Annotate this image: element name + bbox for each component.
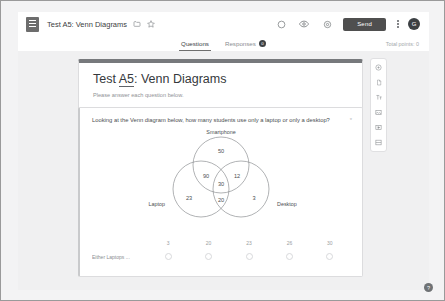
- venn-circle-desktop: [213, 161, 269, 217]
- grid-column-header: 30: [310, 240, 350, 246]
- add-section-icon[interactable]: [373, 137, 384, 148]
- answer-grid-header: 3 20 23 26 30: [92, 240, 350, 246]
- question-text[interactable]: Looking at the Venn diagram below, how m…: [92, 117, 350, 124]
- question-toolbar: [370, 58, 387, 152]
- table-row: Either Laptops ...: [92, 253, 350, 260]
- required-marker: *: [350, 117, 352, 123]
- radio-button[interactable]: [205, 253, 212, 260]
- more-vertical-icon[interactable]: [394, 17, 402, 31]
- tab-questions[interactable]: Questions: [179, 36, 211, 51]
- question-card[interactable]: Looking at the Venn diagram below, how m…: [78, 107, 363, 277]
- help-button[interactable]: ?: [424, 283, 433, 292]
- add-question-icon[interactable]: [373, 62, 384, 73]
- add-image-icon[interactable]: [373, 107, 384, 118]
- form-title-misspelled-token: A5: [119, 72, 134, 87]
- grid-column-header: 3: [148, 240, 188, 246]
- venn-value-smartphone-desktop: 12: [234, 173, 240, 179]
- tab-strip: Questions Responses 0 Total points: 0: [18, 36, 429, 51]
- venn-value-all-three: 30: [218, 181, 224, 187]
- tab-responses-label: Responses: [225, 40, 256, 47]
- grid-column-header: 20: [188, 240, 228, 246]
- eye-preview-icon[interactable]: [297, 17, 311, 31]
- grid-cell[interactable]: [188, 253, 228, 260]
- venn-value-smartphone-only: 50: [218, 148, 224, 154]
- google-forms-icon[interactable]: [26, 17, 39, 32]
- grid-cell[interactable]: [229, 253, 269, 260]
- grid-row-label: Either Laptops ...: [92, 254, 148, 260]
- add-title-description-icon[interactable]: [373, 92, 384, 103]
- radio-button[interactable]: [165, 253, 172, 260]
- venn-label-laptop: Laptop: [149, 201, 166, 207]
- grid-column-header: 26: [269, 240, 309, 246]
- tab-questions-label: Questions: [181, 40, 209, 47]
- folder-move-icon[interactable]: [133, 20, 141, 28]
- gear-settings-icon[interactable]: [320, 17, 334, 31]
- form-title-part-1: Test: [93, 72, 119, 86]
- venn-label-desktop: Desktop: [277, 201, 297, 207]
- radio-button[interactable]: [286, 253, 293, 260]
- venn-diagram-svg: Smartphone Laptop Desktop 50 90 12 30 23…: [141, 127, 301, 235]
- answer-grid: 3 20 23 26 30 Either Laptops ...: [92, 240, 350, 260]
- grid-cell[interactable]: [310, 253, 350, 260]
- import-questions-icon[interactable]: [373, 77, 384, 88]
- form-title[interactable]: Test A5: Venn Diagrams: [93, 72, 348, 86]
- document-title[interactable]: Test A5: Venn Diagrams: [47, 20, 127, 29]
- avatar[interactable]: G: [408, 18, 420, 30]
- star-outline-icon[interactable]: [147, 20, 155, 28]
- grid-cell[interactable]: [269, 253, 309, 260]
- form-content-area: Test A5: Venn Diagrams Please answer eac…: [18, 51, 429, 290]
- send-button[interactable]: Send: [343, 18, 386, 31]
- radio-button[interactable]: [246, 253, 253, 260]
- total-points-label: Total points: 0: [386, 41, 419, 47]
- venn-value-smartphone-laptop: 90: [203, 173, 209, 179]
- forms-editor-window: Test A5: Venn Diagrams: [0, 0, 445, 301]
- add-video-icon[interactable]: [373, 122, 384, 133]
- responses-count-badge: 0: [259, 40, 266, 47]
- venn-value-desktop-only: 3: [252, 195, 255, 201]
- tab-list: Questions Responses 0: [18, 36, 429, 51]
- form-header-card[interactable]: Test A5: Venn Diagrams Please answer eac…: [78, 59, 363, 109]
- venn-diagram-image: Smartphone Laptop Desktop 50 90 12 30 23…: [141, 127, 301, 235]
- form-title-part-2: : Venn Diagrams: [134, 72, 226, 86]
- venn-label-smartphone: Smartphone: [206, 129, 235, 135]
- venn-value-laptop-desktop: 20: [218, 197, 224, 203]
- form-description[interactable]: Please answer each question below.: [93, 92, 348, 98]
- app-bar: Test A5: Venn Diagrams: [18, 12, 429, 36]
- radio-button[interactable]: [326, 253, 333, 260]
- palette-icon[interactable]: [274, 17, 288, 31]
- venn-value-laptop-only: 23: [186, 195, 192, 201]
- tab-responses[interactable]: Responses 0: [223, 36, 268, 51]
- grid-cell[interactable]: [148, 253, 188, 260]
- grid-column-header: 23: [229, 240, 269, 246]
